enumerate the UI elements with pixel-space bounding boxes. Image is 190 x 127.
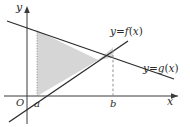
y-axis-label: y: [16, 2, 22, 13]
origin-label: O: [16, 98, 24, 108]
shaded-area-left-lobe: [37, 31, 98, 96]
function-graph-figure: y x O a b y=f(x) y=g(x): [0, 0, 190, 127]
curve-label-f: y=f(x): [110, 26, 143, 37]
x-axis-label: x: [167, 96, 173, 107]
y-axis-arrowhead: [24, 6, 30, 13]
tick-label-b: b: [110, 99, 116, 109]
curve-label-g: y=g(x): [143, 63, 179, 74]
tick-label-a: a: [34, 99, 40, 109]
